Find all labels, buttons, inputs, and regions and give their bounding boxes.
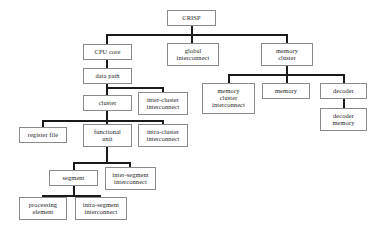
edge-cluster-bus [42, 120, 164, 122]
edge-bus-to-cpu-core [106, 34, 108, 44]
node-processing-element-line2: element [29, 209, 57, 216]
node-register-file-label: register file [21, 132, 65, 139]
node-functional-unit-line2: unit [94, 136, 121, 143]
edge-bus-to-register-file [42, 120, 44, 127]
node-segment-label: segment [51, 175, 96, 182]
node-global-interconnect-line2: interconnect [177, 55, 210, 62]
edge-bus-to-global-interconnect [191, 34, 193, 43]
node-cpu-core[interactable]: CPU core [83, 44, 132, 60]
edge-bus-to-memory-cluster [286, 34, 288, 43]
node-memory-label: memory [264, 88, 308, 95]
node-crisp-label: CRISP [169, 15, 214, 22]
node-intra-segment-interconnect[interactable]: intra-segment interconnect [75, 197, 127, 220]
edge-functional-unit-down [106, 147, 108, 163]
edge-bus-to-memory [286, 74, 288, 83]
node-decoder-label: decoder [322, 88, 365, 95]
node-memory-cluster[interactable]: memory cluster [261, 43, 313, 66]
node-functional-unit[interactable]: functional unit [83, 124, 132, 147]
edge-cpu-core-to-data-path [106, 60, 108, 68]
node-data-path[interactable]: data path [83, 68, 132, 84]
node-cluster[interactable]: cluster [83, 95, 132, 111]
edge-bus-to-segment [73, 162, 75, 170]
node-memory-cluster-interconnect-line3: interconnect [212, 102, 245, 109]
edge-functional-unit-bus [73, 162, 131, 164]
node-inter-segment-interconnect-line2: interconnect [112, 179, 148, 186]
node-cluster-label: cluster [85, 100, 130, 107]
diagram-canvas: CRISP CPU core global interconnect memor… [0, 0, 381, 241]
node-decoder-memory-line2: memory [333, 120, 355, 127]
edge-bus-to-memory-cluster-interconnect [228, 74, 230, 83]
node-decoder[interactable]: decoder [320, 83, 367, 99]
node-memory-cluster-line2: cluster [276, 55, 298, 62]
node-decoder-memory[interactable]: decoder memory [320, 108, 367, 131]
edge-decoder-to-decoder-memory [343, 99, 345, 108]
node-memory[interactable]: memory [262, 83, 310, 99]
node-segment[interactable]: segment [49, 170, 98, 186]
node-crisp[interactable]: CRISP [167, 10, 216, 26]
node-intra-segment-interconnect-line2: interconnect [83, 209, 119, 216]
node-cpu-core-label: CPU core [85, 49, 130, 56]
edge-data-path-bus [106, 87, 164, 89]
node-memory-cluster-interconnect[interactable]: memory cluster interconnect [202, 83, 255, 114]
node-intra-cluster-interconnect[interactable]: intra-cluster interconnect [138, 124, 188, 147]
node-inter-cluster-interconnect[interactable]: inter-cluster interconnect [138, 92, 188, 115]
node-inter-segment-interconnect[interactable]: inter-segment interconnect [105, 167, 156, 190]
edge-top-bus [106, 34, 288, 36]
node-intra-cluster-interconnect-line2: interconnect [147, 136, 180, 143]
node-global-interconnect[interactable]: global interconnect [167, 43, 219, 66]
node-processing-element[interactable]: processing element [19, 197, 67, 220]
node-register-file[interactable]: register file [19, 127, 67, 143]
edge-bus-to-decoder [343, 74, 345, 83]
node-data-path-label: data path [85, 73, 130, 80]
edge-bus-to-cluster [106, 87, 108, 95]
node-inter-cluster-interconnect-line2: interconnect [147, 104, 180, 111]
